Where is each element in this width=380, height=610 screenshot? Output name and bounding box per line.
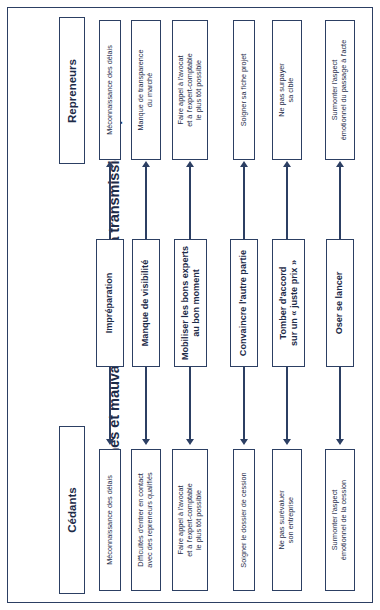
arrowhead-down-1 — [106, 439, 114, 445]
node-repreneurs-1-label: Méconnaissance des délais — [106, 45, 115, 135]
arrowhead-up-6 — [336, 161, 344, 167]
node-center-3-label: Mobiliser les bons expertsau bon moment — [179, 246, 201, 360]
arrowhead-up-4 — [240, 161, 248, 167]
arrowhead-up-2 — [142, 161, 150, 167]
node-repreneurs-2: Manque de transparencedu marché — [131, 20, 161, 160]
node-repreneurs-6: Surmonter l'aspectémotionnel du passage … — [325, 20, 355, 160]
connector-down-5 — [286, 367, 287, 439]
diagram-page: Les bonnes et mauvaises attitudes de la … — [0, 0, 380, 610]
arrowhead-down-3 — [186, 439, 194, 445]
node-center-4: Convaincre l'autre partie — [230, 239, 258, 367]
connector-down-1 — [109, 367, 110, 439]
connector-up-2 — [145, 167, 146, 239]
node-center-1-label: Impréparation — [104, 273, 115, 334]
node-center-6: Oser se lancer — [326, 239, 354, 367]
arrowhead-down-6 — [336, 439, 344, 445]
node-center-2: Manque de visibilité — [132, 239, 160, 367]
node-cedants-3-label: Faire appel à l'avocatet à l'expert-comp… — [177, 483, 204, 557]
node-repreneurs-6-label: Surmonter l'aspectémotionnel du passage … — [331, 40, 349, 140]
connector-up-6 — [339, 167, 340, 239]
node-cedants-1: Méconnaissance des délais — [99, 449, 121, 591]
connector-down-3 — [189, 367, 190, 439]
connector-up-3 — [189, 167, 190, 239]
section-header-repreneurs-label: Repreneurs — [66, 59, 78, 123]
node-repreneurs-5: Ne pas surpayersa cible — [272, 20, 302, 160]
arrowhead-up-5 — [283, 161, 291, 167]
node-repreneurs-4-label: Soigner sa fiche projet — [240, 54, 249, 127]
connector-down-2 — [145, 367, 146, 439]
node-cedants-3: Faire appel à l'avocatet à l'expert-comp… — [172, 449, 208, 591]
connector-down-6 — [339, 367, 340, 439]
node-repreneurs-1: Méconnaissance des délais — [99, 20, 121, 160]
node-center-4-label: Convaincre l'autre partie — [238, 250, 249, 356]
node-cedants-4: Soigner le dossier de cession — [233, 449, 255, 591]
node-center-5-label: Tomber d'accordsur un « juste prix » — [277, 260, 299, 346]
node-cedants-6: Surmonter l'aspectémotionnel de la cessi… — [325, 449, 355, 591]
node-cedants-5: Ne pas surévaluerson entreprise — [272, 449, 302, 591]
node-repreneurs-2-label: Manque de transparencedu marché — [137, 49, 155, 130]
node-center-3: Mobiliser les bons expertsau bon moment — [174, 239, 207, 367]
node-cedants-1-label: Méconnaissance des délais — [106, 475, 115, 565]
node-center-2-label: Manque de visibilité — [140, 260, 151, 346]
section-header-cedants-label: Cédants — [66, 487, 78, 532]
connector-up-5 — [286, 167, 287, 239]
connector-down-4 — [243, 367, 244, 439]
node-center-5: Tomber d'accordsur un « juste prix » — [272, 239, 305, 367]
section-header-repreneurs: Repreneurs — [59, 17, 85, 164]
connector-up-4 — [243, 167, 244, 239]
connector-up-1 — [109, 167, 110, 239]
node-repreneurs-5-label: Ne pas surpayersa cible — [278, 63, 296, 117]
node-repreneurs-3-label: Faire appel à l'avocatet à l'expert-comp… — [177, 53, 204, 127]
node-repreneurs-4: Soigner sa fiche projet — [233, 20, 255, 160]
arrowhead-down-2 — [142, 439, 150, 445]
arrowhead-down-5 — [283, 439, 291, 445]
section-header-cedants: Cédants — [59, 426, 85, 594]
node-cedants-4-label: Soigner le dossier de cession — [240, 472, 249, 567]
node-cedants-2: Difficultés d'entrer en contactavec des … — [131, 449, 161, 591]
node-center-1: Impréparation — [96, 239, 124, 367]
arrowhead-up-3 — [186, 161, 194, 167]
node-repreneurs-3: Faire appel à l'avocatet à l'expert-comp… — [172, 20, 208, 160]
arrowhead-down-4 — [240, 439, 248, 445]
arrowhead-up-1 — [106, 161, 114, 167]
node-cedants-5-label: Ne pas surévaluerson entreprise — [278, 490, 296, 549]
node-center-6-label: Oser se lancer — [334, 272, 345, 335]
node-cedants-6-label: Surmonter l'aspectémotionnel de la cessi… — [331, 480, 349, 560]
node-cedants-2-label: Difficultés d'entrer en contactavec des … — [137, 472, 155, 567]
